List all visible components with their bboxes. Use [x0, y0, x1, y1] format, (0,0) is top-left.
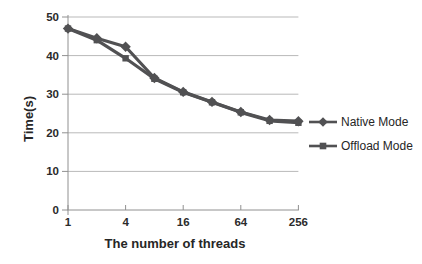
svg-text:50: 50 — [46, 11, 59, 23]
y-axis-title: Time(s) — [21, 96, 36, 142]
legend: Native Mode Offload Mode — [308, 114, 413, 154]
legend-label-native-mode: Native Mode — [341, 115, 408, 129]
chart-figure: 01020304050141664256 Time(s) The number … — [0, 0, 422, 264]
native-mode-diamond-marker-icon — [308, 116, 338, 128]
svg-text:40: 40 — [46, 50, 59, 62]
svg-text:10: 10 — [46, 165, 59, 177]
legend-item-native-mode: Native Mode — [308, 114, 413, 130]
svg-text:4: 4 — [122, 216, 129, 228]
svg-text:20: 20 — [46, 127, 59, 139]
svg-text:30: 30 — [46, 88, 59, 100]
svg-text:16: 16 — [177, 216, 190, 228]
legend-item-offload-mode: Offload Mode — [308, 138, 413, 154]
svg-text:64: 64 — [234, 216, 247, 228]
x-axis-title: The number of threads — [105, 236, 246, 251]
offload-mode-square-marker-icon — [308, 140, 338, 152]
svg-text:0: 0 — [53, 204, 59, 216]
svg-text:1: 1 — [65, 216, 72, 228]
svg-text:256: 256 — [289, 216, 308, 228]
legend-label-offload-mode: Offload Mode — [341, 139, 413, 153]
